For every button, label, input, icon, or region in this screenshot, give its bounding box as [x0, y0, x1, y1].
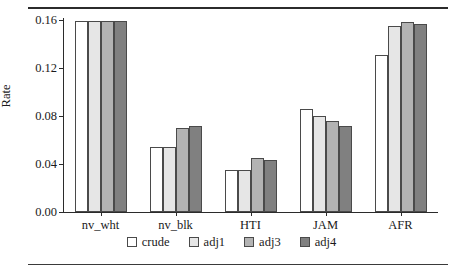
- legend-swatch-icon: [189, 237, 199, 247]
- y-axis-tick: [59, 116, 63, 117]
- bar-HTI-adj4: [264, 160, 277, 212]
- bar-HTI-adj1: [238, 170, 251, 212]
- x-axis-tick: [101, 212, 102, 216]
- y-axis-tick: [59, 164, 63, 165]
- bar-AFR-adj1: [388, 26, 401, 212]
- plot-area: 0.000.040.080.120.16nv_whtnv_blkHTIJAMAF…: [63, 20, 438, 212]
- bar-AFR-adj4: [414, 24, 427, 212]
- y-axis-tick-label: 0.16: [35, 14, 57, 27]
- bottom-horizontal-rule: [28, 264, 448, 265]
- bar-AFR-adj3: [401, 22, 414, 212]
- bar-JAM-crude: [300, 109, 313, 212]
- bar-AFR-crude: [375, 55, 388, 212]
- legend-swatch-icon: [127, 237, 137, 247]
- bar-HTI-crude: [225, 170, 238, 212]
- y-axis-tick: [59, 68, 63, 69]
- x-axis-tick-label: nv_wht: [82, 219, 120, 232]
- x-axis-tick-label: JAM: [313, 219, 338, 232]
- chart-legend: crudeadj1adj3adj4: [0, 236, 463, 249]
- legend-item-crude: crude: [127, 236, 170, 249]
- bar-JAM-adj4: [339, 126, 352, 212]
- legend-label: crude: [142, 236, 170, 249]
- x-axis-tick: [326, 212, 327, 216]
- legend-swatch-icon: [244, 237, 254, 247]
- x-axis-tick-label: AFR: [388, 219, 412, 232]
- bar-JAM-adj3: [326, 121, 339, 212]
- y-axis-line: [63, 18, 64, 212]
- bar-nv_blk-adj1: [163, 147, 176, 212]
- legend-item-adj3: adj3: [244, 236, 281, 249]
- y-axis-tick-label: 0.00: [35, 206, 57, 219]
- bar-nv_blk-adj3: [176, 128, 189, 212]
- legend-label: adj3: [259, 236, 281, 249]
- legend-item-adj4: adj4: [300, 236, 337, 249]
- y-axis-tick: [59, 212, 63, 213]
- top-horizontal-rule: [28, 7, 448, 9]
- bar-nv_blk-adj4: [189, 126, 202, 212]
- bar-nv_blk-crude: [150, 147, 163, 212]
- bar-chart-figure: Rate 0.000.040.080.120.16nv_whtnv_blkHTI…: [0, 0, 463, 275]
- y-axis-tick-label: 0.04: [35, 158, 57, 171]
- x-axis-tick-label: HTI: [240, 219, 261, 232]
- bar-HTI-adj3: [251, 158, 264, 212]
- y-axis-tick-label: 0.12: [35, 62, 57, 75]
- legend-item-adj1: adj1: [189, 236, 226, 249]
- legend-label: adj1: [204, 236, 226, 249]
- legend-label: adj4: [315, 236, 337, 249]
- legend-swatch-icon: [300, 237, 310, 247]
- x-axis-tick: [251, 212, 252, 216]
- bar-nv_wht-adj4: [114, 21, 127, 212]
- x-axis-tick: [401, 212, 402, 216]
- bar-nv_wht-adj3: [101, 21, 114, 212]
- y-axis-title: Rate: [0, 85, 12, 108]
- bar-JAM-adj1: [313, 116, 326, 212]
- x-axis-tick-label: nv_blk: [158, 219, 193, 232]
- y-axis-tick-label: 0.08: [35, 110, 57, 123]
- bar-nv_wht-crude: [75, 21, 88, 212]
- x-axis-tick: [176, 212, 177, 216]
- y-axis-tick: [59, 20, 63, 21]
- bar-nv_wht-adj1: [88, 21, 101, 212]
